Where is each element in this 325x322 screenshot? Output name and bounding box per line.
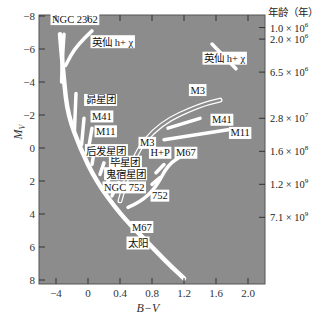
age-tick-label: 1.6 × 108 — [270, 144, 309, 157]
label-text: M11 — [96, 126, 115, 137]
x-tick-label: 0.8 — [145, 287, 159, 299]
label-text: M41 — [92, 111, 112, 122]
x-tick-label: 0 — [85, 287, 91, 299]
cluster-label: M3 — [189, 84, 207, 96]
label-text: 后发星团 — [86, 145, 126, 157]
x-tick-label: 2.0 — [241, 287, 255, 299]
label-text: 鬼宿星团 — [106, 168, 146, 180]
y-tick-label: 2 — [30, 175, 36, 187]
cluster-label: 昴星团 — [84, 94, 117, 106]
x-tick-label: −4 — [50, 287, 62, 299]
cluster-label: M67 — [131, 221, 154, 233]
cluster-label: NGC 2362 — [51, 13, 100, 25]
label-text: 英仙 h+ χ — [92, 36, 133, 48]
age-tick-label: 1.0 × 106 — [270, 21, 309, 34]
age-tick-label: 1.2 × 109 — [270, 177, 309, 190]
cluster-label: M11 — [95, 125, 117, 137]
hr-diagram-chart: NGC 2362英仙 h+ χ英仙 h+ χ昴星团M41M11后发星团毕星团鬼宿… — [0, 0, 325, 322]
cluster-label: H+P — [149, 147, 172, 159]
age-tick-label: 2.0 × 106 — [270, 32, 309, 45]
y-tick-label: −2 — [23, 109, 35, 121]
y-tick-label: 8 — [30, 274, 36, 286]
cluster-label: 英仙 h+ χ — [91, 35, 135, 48]
x-tick-label: 0.4 — [113, 287, 127, 299]
cluster-label: 后发星团 — [85, 144, 128, 157]
label-text: 太阳 — [128, 237, 148, 249]
cluster-label: 太阳 — [127, 237, 150, 250]
y-tick-label: 0 — [30, 142, 36, 154]
cluster-label: 752 — [151, 190, 170, 202]
cluster-label: M11 — [229, 127, 251, 139]
y-tick-label: −4 — [23, 76, 35, 88]
age-tick-label: 6.5 × 106 — [270, 65, 309, 78]
age-axis-title: 年龄（年） — [268, 6, 318, 18]
cluster-label: M67 — [175, 147, 198, 159]
curve-pleiades — [74, 94, 76, 132]
y-tick-label: −6 — [23, 43, 35, 55]
x-tick-label: 1.6 — [209, 287, 223, 299]
label-text: M41 — [212, 114, 232, 125]
label-text: M11 — [230, 127, 249, 138]
label-text: 毕星团 — [110, 156, 140, 168]
age-tick-label: 7.1 × 109 — [270, 210, 309, 223]
cluster-label: 鬼宿星团 — [104, 167, 147, 180]
y-tick-label: 6 — [30, 241, 36, 253]
cluster-label: 毕星团 — [109, 156, 142, 169]
x-axis-title: B−V — [137, 301, 161, 315]
label-text: NGC 2362 — [52, 14, 98, 25]
label-text: 英仙 h+ χ — [204, 52, 245, 64]
label-text: M3 — [190, 85, 205, 96]
label-text: 752 — [152, 190, 168, 201]
y-axis-title-sub: V — [18, 124, 27, 130]
label-text: M67 — [176, 147, 196, 158]
cluster-label: NGC 752 — [103, 181, 147, 193]
y-axis-title: MV — [11, 124, 27, 141]
label-text: 昴星团 — [86, 94, 116, 105]
y-tick-label: −8 — [23, 10, 35, 22]
label-text: NGC 752 — [104, 182, 145, 193]
label-text: M67 — [132, 222, 152, 233]
curve-m41-turnoff — [82, 118, 84, 144]
cluster-label: M41 — [91, 110, 114, 122]
label-text: H+P — [150, 147, 170, 158]
cluster-label: 英仙 h+ χ — [203, 52, 247, 65]
age-tick-label: 2.8 × 107 — [270, 111, 309, 124]
cluster-label: M41 — [211, 114, 234, 126]
x-tick-label: 1.2 — [177, 287, 191, 299]
y-tick-label: 4 — [30, 208, 36, 220]
